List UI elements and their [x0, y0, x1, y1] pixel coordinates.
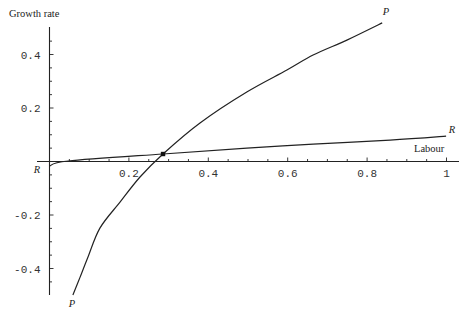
series: PPRR: [33, 6, 456, 309]
x-tick-label: 0.6: [278, 168, 298, 180]
intersection-point: [161, 152, 165, 156]
curve-label-p-start: P: [68, 298, 76, 309]
axes: 0.20.40.60.81 0.40.2-0.2-0.4 Growth rate…: [9, 8, 459, 295]
curve-p: [73, 23, 382, 295]
annotations: [161, 152, 165, 156]
x-axis-ticks: 0.20.40.60.81: [69, 158, 450, 180]
x-axis-title: Labour: [414, 143, 445, 154]
x-tick-label: 1: [443, 168, 450, 180]
growth-rate-chart: 0.20.40.60.81 0.40.2-0.2-0.4 Growth rate…: [0, 0, 474, 321]
x-tick-label: 0.4: [198, 168, 218, 180]
y-tick-label: -0.4: [14, 264, 41, 276]
y-tick-label: 0.4: [21, 50, 41, 62]
y-tick-label: 0.2: [21, 103, 41, 115]
x-tick-label: 0.2: [119, 168, 139, 180]
x-tick-label: 0.8: [357, 168, 377, 180]
y-tick-label: -0.2: [14, 210, 40, 222]
curve-label-p-end: P: [382, 6, 390, 17]
curve-label-r-start: R: [33, 164, 41, 175]
curve-label-r-end: R: [448, 124, 456, 135]
y-axis-title: Growth rate: [9, 8, 60, 19]
